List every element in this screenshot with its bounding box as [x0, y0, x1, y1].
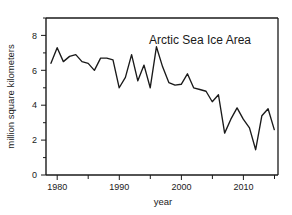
x-axis-tick-labels: 1980 1990 2000 2010: [47, 182, 253, 192]
y-tick-label-6: 6: [32, 66, 37, 76]
x-axis-title: year: [154, 196, 172, 207]
y-axis-major-ticks: [41, 35, 46, 175]
x-tick-label-2000: 2000: [171, 182, 191, 192]
y-axis-tick-labels: 0 2 4 6 8: [32, 31, 37, 181]
y-tick-label-0: 0: [32, 170, 37, 180]
x-tick-label-1980: 1980: [47, 182, 67, 192]
y-tick-label-2: 2: [32, 135, 37, 145]
chart-title: Arctic Sea Ice Area: [149, 33, 251, 47]
line-chart-canvas: 0 2 4 6 8 1980 1990 2000 2010 yea: [0, 0, 292, 215]
arctic-sea-ice-area-figure: 0 2 4 6 8 1980 1990 2000 2010 yea: [0, 0, 292, 215]
y-axis-title: million square kilometers: [5, 44, 16, 149]
y-tick-label-4: 4: [32, 100, 37, 110]
x-tick-label-2010: 2010: [233, 182, 253, 192]
y-tick-label-8: 8: [32, 31, 37, 41]
x-tick-label-1990: 1990: [109, 182, 129, 192]
